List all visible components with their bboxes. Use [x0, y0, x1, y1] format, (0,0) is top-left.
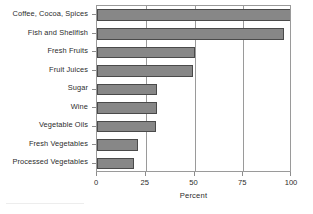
bar [97, 28, 284, 40]
bar-row [97, 117, 290, 136]
value-tick [242, 172, 243, 176]
category-label: Fish and Shellfish [28, 24, 88, 43]
bar [97, 84, 157, 96]
value-tick-label: 0 [94, 178, 98, 187]
bar [97, 9, 291, 21]
bar-row [97, 43, 290, 62]
bar-row [97, 6, 290, 25]
bar-row [97, 25, 290, 44]
value-axis-ticks [96, 172, 291, 177]
value-tick [194, 172, 195, 176]
x-axis-title: Percent [96, 191, 291, 200]
category-label: Wine [71, 98, 88, 117]
value-tick-label: 50 [189, 178, 197, 187]
bar [97, 47, 195, 59]
category-label: Coffee, Cocoa, Spices [12, 5, 88, 24]
category-label: Fruit Juices [49, 61, 88, 80]
category-label: Processed Vegetables [12, 153, 88, 172]
footer-rule [6, 203, 84, 204]
category-label: Fresh Vegetables [29, 135, 88, 154]
bar [97, 139, 138, 151]
category-axis-labels: Coffee, Cocoa, SpicesFish and ShellfishF… [0, 5, 92, 172]
value-tick [145, 172, 146, 176]
value-tick [290, 172, 291, 176]
bar-row [97, 154, 290, 172]
value-axis-tick-labels: 0255075100 [96, 178, 291, 190]
value-tick-label: 25 [141, 178, 149, 187]
bar-row [97, 80, 290, 99]
bar-row [97, 136, 290, 155]
bar-row [97, 62, 290, 81]
bar-chart-figure: Coffee, Cocoa, SpicesFish and ShellfishF… [0, 0, 313, 214]
bar [97, 65, 193, 77]
bar-row [97, 99, 290, 118]
bar [97, 158, 134, 170]
plot-area [96, 5, 291, 172]
value-tick-label: 75 [238, 178, 246, 187]
value-tick [96, 172, 97, 176]
bar [97, 121, 156, 133]
category-label: Sugar [68, 79, 88, 98]
category-label: Vegetable Oils [39, 116, 88, 135]
category-label: Fresh Fruits [47, 42, 88, 61]
bar [97, 102, 157, 114]
value-tick-label: 100 [285, 178, 298, 187]
